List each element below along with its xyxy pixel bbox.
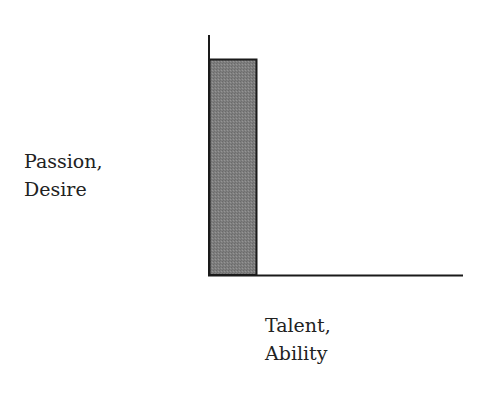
x-axis-label: Talent, Ability — [265, 311, 331, 367]
bar — [210, 60, 257, 276]
y-axis-label-line1: Passion, — [24, 147, 103, 175]
x-axis-label-line2: Ability — [265, 339, 331, 367]
x-axis-label-line1: Talent, — [265, 311, 331, 339]
y-axis-label-line2: Desire — [24, 175, 103, 203]
passion-talent-chart: Passion, Desire Talent, Ability — [0, 0, 487, 393]
y-axis-label: Passion, Desire — [24, 147, 103, 203]
